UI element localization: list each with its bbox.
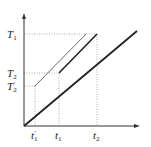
y-label-T2-prime: T2′ [7, 80, 17, 94]
x-label-t2: t2 [93, 129, 100, 143]
reference-line [24, 31, 137, 126]
guide-lines [24, 34, 97, 126]
x-label-t1: t1 [55, 129, 62, 143]
thick-segment [59, 34, 97, 73]
y-label-T2: T2 [7, 67, 17, 81]
thin-segment [35, 34, 86, 86]
axes [24, 16, 137, 126]
diagram: T1 T2 T2′ t1′ t1 t2 [0, 0, 151, 147]
x-axis-arrow-icon [134, 124, 140, 128]
x-label-t1-prime: t1′ [31, 129, 38, 143]
y-axis-arrow-icon [22, 13, 26, 19]
y-label-T1: T1 [7, 28, 17, 42]
line-diagram: T1 T2 T2′ t1′ t1 t2 [0, 0, 151, 147]
